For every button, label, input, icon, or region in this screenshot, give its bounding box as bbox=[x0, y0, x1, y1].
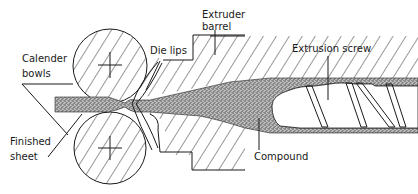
extruder-calender-diagram: Calender bowls Die lips Extruder barrel … bbox=[0, 0, 418, 194]
finished-sheet-label-1: Finished bbox=[10, 136, 51, 147]
extrusion-screw-label: Extrusion screw bbox=[292, 43, 371, 54]
die-lips-label: Die lips bbox=[150, 45, 187, 56]
extruder-barrel-label-2: barrel bbox=[202, 21, 231, 32]
calender-bowls-label-2: bowls bbox=[22, 68, 51, 79]
extruder-barrel-label-1: Extruder bbox=[202, 9, 246, 20]
compound-label: Compound bbox=[254, 151, 308, 162]
calender-bowls-label-1: Calender bbox=[22, 53, 68, 64]
top-calender-bowl bbox=[70, 26, 150, 106]
extrusion-screw bbox=[272, 83, 418, 128]
finished-sheet-label-2: sheet bbox=[10, 151, 38, 162]
